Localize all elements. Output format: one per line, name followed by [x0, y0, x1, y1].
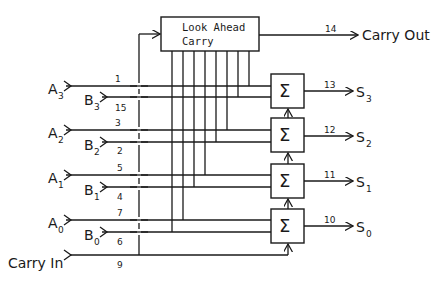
input-a1: A 1 5 [48, 163, 271, 190]
svg-text:A: A [48, 81, 58, 97]
input-b0: B 0 6 [84, 227, 271, 247]
svg-text:10: 10 [324, 215, 336, 225]
look-ahead-carry-block: Look Ahead Carry [161, 17, 259, 51]
svg-text:B: B [84, 137, 94, 153]
input-b1: B 1 4 [84, 182, 271, 202]
svg-text:1: 1 [366, 184, 372, 194]
svg-text:5: 5 [117, 163, 123, 173]
svg-text:4: 4 [117, 192, 123, 202]
adder-1: Σ 11 S 1 [271, 164, 372, 198]
adder-3: Σ 13 S 3 [271, 74, 372, 108]
look-ahead-label-line1: Look Ahead [182, 21, 245, 33]
input-b2: B 2 2 [84, 137, 271, 157]
svg-text:13: 13 [324, 80, 335, 90]
svg-text:S: S [356, 174, 365, 190]
svg-text:1: 1 [58, 180, 64, 190]
adder-2: Σ 12 S 2 [271, 118, 372, 152]
svg-text:7: 7 [117, 208, 123, 218]
svg-text:6: 6 [117, 237, 123, 247]
input-a0: A 0 7 [48, 208, 271, 235]
svg-text:B: B [84, 182, 94, 198]
svg-text:1: 1 [115, 74, 121, 84]
svg-text:15: 15 [115, 103, 126, 113]
svg-text:0: 0 [94, 237, 100, 247]
svg-text:B: B [84, 92, 94, 108]
svg-text:Σ: Σ [279, 80, 290, 101]
svg-text:2: 2 [117, 146, 123, 156]
svg-text:A: A [48, 125, 58, 141]
svg-text:Σ: Σ [279, 170, 290, 191]
svg-text:S: S [356, 219, 365, 235]
look-ahead-label-line2: Carry [182, 35, 214, 47]
svg-text:3: 3 [115, 118, 121, 128]
svg-text:12: 12 [324, 125, 335, 135]
carry-in-label: Carry In [8, 255, 63, 271]
svg-text:3: 3 [366, 94, 372, 104]
carry-in-path: Carry In 9 [8, 34, 288, 271]
svg-text:2: 2 [94, 147, 100, 157]
adder-diagram: Look Ahead Carry 14 Carry Out Carry In 9… [0, 0, 448, 284]
svg-text:0: 0 [366, 229, 372, 239]
input-b3: B 3 15 [84, 92, 271, 113]
carry-out-label: Carry Out [362, 27, 430, 43]
carry-out-pin: 14 [325, 24, 337, 34]
svg-text:B: B [84, 227, 94, 243]
svg-text:S: S [356, 84, 365, 100]
svg-text:3: 3 [94, 102, 100, 112]
adder-0: Σ 10 S 0 [271, 209, 372, 243]
carry-out-output: 14 Carry Out [259, 24, 430, 43]
input-a2: A 2 3 [48, 118, 271, 145]
svg-text:S: S [356, 129, 365, 145]
svg-text:0: 0 [58, 225, 64, 235]
svg-text:2: 2 [366, 139, 372, 149]
svg-text:Σ: Σ [279, 124, 290, 145]
svg-text:11: 11 [324, 170, 335, 180]
svg-text:2: 2 [58, 135, 64, 145]
svg-text:A: A [48, 170, 58, 186]
carry-in-pin: 9 [117, 260, 123, 270]
svg-text:1: 1 [94, 192, 100, 202]
svg-text:Σ: Σ [279, 215, 290, 236]
svg-text:A: A [48, 215, 58, 231]
svg-text:3: 3 [58, 91, 64, 101]
